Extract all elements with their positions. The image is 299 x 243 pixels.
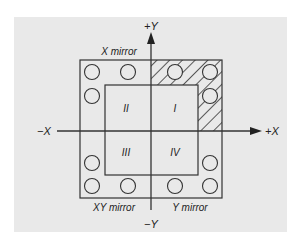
circle bbox=[85, 179, 100, 194]
x-mirror-label: X mirror bbox=[100, 46, 137, 57]
circle bbox=[203, 89, 218, 104]
circle bbox=[121, 65, 136, 80]
xy-mirror-label: XY mirror bbox=[92, 202, 136, 213]
minus-y-label: −Y bbox=[144, 218, 158, 230]
plus-x-label: +X bbox=[265, 125, 279, 137]
circle bbox=[85, 89, 100, 104]
quadrant-iii-label: III bbox=[122, 147, 131, 158]
circle bbox=[85, 65, 100, 80]
symmetry-diagram: +X −X +Y −Y II I III IV X mirror XY mirr… bbox=[0, 0, 299, 243]
plus-y-label: +Y bbox=[144, 20, 158, 32]
circle bbox=[203, 156, 218, 171]
circle bbox=[168, 179, 183, 194]
circle bbox=[121, 179, 136, 194]
quadrant-ii-label: II bbox=[123, 103, 129, 114]
quadrant-iv-label: IV bbox=[170, 147, 181, 158]
y-mirror-label: Y mirror bbox=[172, 202, 208, 213]
circle bbox=[203, 65, 218, 80]
circle bbox=[85, 156, 100, 171]
quadrant-i-label: I bbox=[174, 103, 177, 114]
circle bbox=[203, 179, 218, 194]
circle bbox=[168, 65, 183, 80]
minus-x-label: −X bbox=[37, 125, 51, 137]
